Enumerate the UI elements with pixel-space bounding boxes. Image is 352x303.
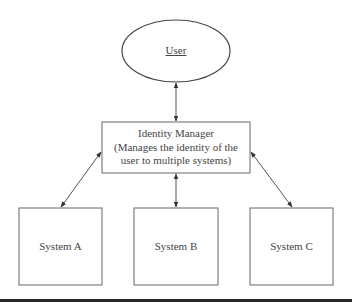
system-c-node-label: System C	[250, 240, 333, 254]
system-b-node-label: System B	[134, 240, 218, 254]
identity-manager-description-line2: user to multiple systems)	[102, 154, 250, 168]
identity-manager-node-label: Identity Manager (Manages the identity o…	[102, 127, 250, 168]
identity-manager-description-line1: (Manages the identity of the	[102, 141, 250, 155]
user-node-label: User	[122, 44, 230, 58]
arrow-identity-manager-system-c	[251, 152, 292, 207]
arrow-identity-manager-system-a	[61, 152, 101, 207]
identity-manager-title: Identity Manager	[102, 127, 250, 141]
bottom-rule-divider	[0, 299, 352, 302]
system-a-node-label: System A	[19, 240, 102, 254]
